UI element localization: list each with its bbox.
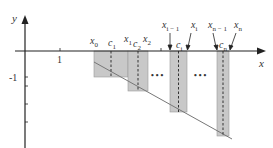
y-axis-arrow-icon (22, 15, 29, 24)
label-c1: c1 (108, 37, 116, 51)
point-labels: x0 c1 x1 c2 x2 xi − 1 ci xi xn − 1 cn xn (89, 19, 242, 53)
x-tick-label-1: 1 (57, 54, 62, 65)
arrow-head-xi-icon (186, 45, 190, 50)
arrow-xi (188, 33, 191, 47)
y-axis-label: y (11, 12, 17, 24)
riemann-sum-diagram: y x 1 -1 x0 c1 x1 c2 x2 xi − 1 ci xi xn … (0, 0, 273, 148)
label-x1: x1 (123, 33, 132, 47)
arrow-xn-minus-1 (213, 33, 216, 47)
ellipsis-1: • • • (151, 71, 164, 80)
label-xn-minus-1: xn − 1 (207, 19, 227, 33)
y-tick-label-neg1: -1 (9, 72, 17, 83)
arrow-xn (231, 33, 236, 47)
rectangle-1 (94, 51, 128, 77)
riemann-rectangles (94, 51, 229, 136)
label-xi-minus-1: xi − 1 (161, 19, 180, 33)
ellipsis-2: • • • (194, 71, 207, 80)
label-x0: x0 (89, 35, 98, 49)
label-xi: xi (190, 19, 197, 33)
label-xn: xn (233, 19, 242, 33)
label-c2: c2 (133, 38, 141, 52)
x-axis-label: x (258, 57, 264, 69)
arrow-head-xi-minus-1-icon (168, 45, 172, 50)
label-x2: x2 (142, 33, 151, 47)
x-axis-arrow-icon (257, 48, 266, 55)
arrow-head-xn-icon (229, 45, 233, 50)
arrow-head-xn-minus-1-icon (214, 45, 218, 50)
